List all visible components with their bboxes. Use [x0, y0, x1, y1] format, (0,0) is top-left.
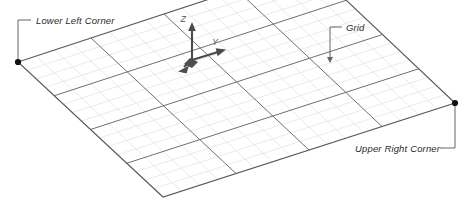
diagram-root: Z Y Lower Left Corner Grid Upper Right [0, 0, 471, 204]
upper-right-corner-label: Upper Right Corner [355, 143, 441, 154]
z-axis-label: Z [180, 14, 187, 24]
axis-triad: Z Y [178, 14, 226, 74]
y-axis-line [192, 52, 218, 60]
lower-left-corner-label: Lower Left Corner [36, 15, 115, 26]
minor-grid-lines [27, 0, 446, 191]
lower-left-corner-leader-line [18, 20, 31, 62]
annotation-upper-right-corner: Upper Right Corner [355, 100, 458, 154]
y-axis-label: Y [212, 37, 219, 47]
grid-outline [18, 0, 455, 197]
grid-leader-line [330, 27, 342, 62]
z-axis-arrowhead [188, 22, 196, 31]
upper-right-corner-dot [452, 100, 458, 106]
upper-right-corner-leader-line [440, 103, 455, 148]
x-axis-arrowhead [178, 66, 189, 74]
grid-diagram-canvas: Z Y Lower Left Corner Grid Upper Right [0, 0, 471, 204]
y-axis-arrowhead [216, 48, 226, 56]
lower-left-corner-dot [15, 59, 21, 65]
grid-label: Grid [346, 22, 365, 33]
